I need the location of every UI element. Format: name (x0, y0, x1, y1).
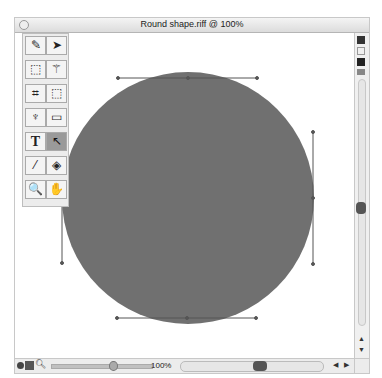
toolbox-palette: ✎ ➤ ⬚ ⚚ ⌗ ⬚ ♆ ▭ T ↖ ⁄ ◈ 🔍 ✋ (22, 33, 69, 207)
rectangle-tool-icon[interactable]: ▭ (46, 108, 67, 127)
magic-wand-tool-icon[interactable]: ⚚ (46, 60, 67, 79)
paint-bucket-tool-icon[interactable]: ◈ (46, 156, 67, 175)
pen-tool-icon[interactable]: ♆ (25, 108, 46, 127)
marquee-tool-icon[interactable]: ⬚ (25, 60, 46, 79)
selection-transform-tool-icon[interactable]: ⬚ (46, 84, 67, 103)
round-shape[interactable] (62, 72, 314, 324)
crop-tool-icon[interactable]: ⌗ (25, 84, 46, 103)
zoom-tool-icon[interactable]: 🔍 (25, 180, 46, 199)
move-tool-icon[interactable]: ➤ (46, 36, 67, 55)
eyedropper-tool-icon[interactable]: ⁄ (25, 156, 46, 175)
direct-selection-tool-icon[interactable]: ↖ (46, 132, 67, 151)
brush-tool-icon[interactable]: ✎ (25, 36, 46, 55)
text-tool-icon[interactable]: T (25, 132, 46, 151)
hand-tool-icon[interactable]: ✋ (46, 180, 67, 199)
